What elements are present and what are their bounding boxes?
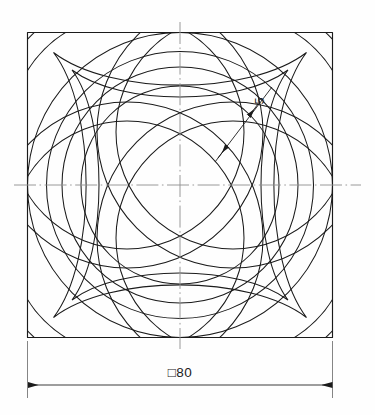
- centerlines-group: [14, 22, 361, 349]
- band-d-outer-edge: [97, 102, 369, 374]
- band-b-inner-edge: [116, 15, 350, 249]
- band-width-arrow-lower: [218, 146, 227, 158]
- band-width-arrow-upper: [249, 104, 258, 116]
- band-width-dimension-text: 5: [253, 97, 267, 104]
- band-b: [97, 0, 369, 268]
- band-b-outer-edge: [97, 0, 369, 268]
- band-c-outer-edge: [0, 102, 263, 374]
- drawing-svg: 5 □80: [0, 0, 375, 415]
- overall-dimension-text: □80: [168, 365, 192, 380]
- band-c-inner-edge: [10, 121, 244, 355]
- overall-width-dimension: □80: [28, 341, 333, 398]
- technical-drawing-canvas: 5 □80: [0, 0, 375, 415]
- band-c: [0, 102, 263, 374]
- band-d-inner-edge: [116, 121, 350, 355]
- band-a-inner-edge: [10, 15, 244, 249]
- rosette-pattern-group: [0, 0, 369, 374]
- band-d: [97, 102, 369, 374]
